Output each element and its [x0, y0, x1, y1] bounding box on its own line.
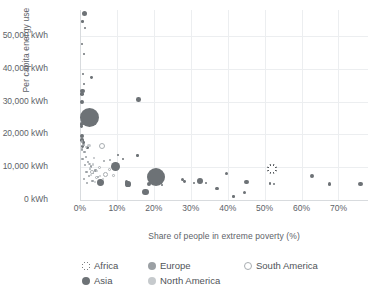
gridline-horizontal	[80, 134, 368, 135]
data-point-asia[interactable]	[81, 20, 84, 23]
data-point-europe[interactable]	[85, 171, 87, 173]
data-point-asia[interactable]	[84, 27, 86, 29]
legend-swatch-europe-icon	[148, 262, 156, 270]
y-axis-tick-label: 10,000 kWh	[0, 161, 48, 171]
data-point-asia[interactable]	[197, 178, 203, 184]
data-point-europe[interactable]	[109, 159, 111, 161]
x-axis-tick-label: 60%	[282, 203, 322, 213]
legend-swatch-africa-icon	[82, 262, 90, 270]
legend-item-asia[interactable]: Asia	[82, 275, 112, 286]
legend-label: North America	[160, 275, 220, 286]
data-point-southamerica[interactable]	[93, 157, 96, 160]
data-point-asia[interactable]	[136, 97, 141, 102]
data-point-asia[interactable]	[161, 184, 163, 186]
data-point-europe[interactable]	[103, 160, 105, 162]
data-point-asia[interactable]	[232, 195, 235, 198]
legend-item-europe[interactable]: Europe	[148, 260, 191, 271]
y-axis-tick-label: 50,000 kWh	[0, 30, 48, 40]
data-point-asia[interactable]	[80, 92, 84, 96]
data-point-asia[interactable]	[82, 11, 87, 16]
data-point-africa[interactable]	[267, 164, 277, 174]
data-point-asia[interactable]	[193, 182, 195, 184]
y-axis-tick-label: 30,000 kWh	[0, 96, 48, 106]
data-point-europe[interactable]	[85, 156, 87, 158]
gridline-vertical	[265, 10, 266, 200]
legend-swatch-southamerica-icon	[244, 262, 252, 270]
x-axis-tick-label: 40%	[208, 203, 248, 213]
legend-label: Europe	[160, 260, 191, 271]
data-point-asia[interactable]	[156, 182, 158, 184]
data-point-asia[interactable]	[273, 183, 275, 185]
data-point-asia[interactable]	[122, 158, 124, 160]
data-point-asia[interactable]	[310, 174, 314, 178]
x-axis-tick-label: 70%	[318, 203, 358, 213]
gridline-vertical	[191, 10, 192, 200]
data-point-northamerica[interactable]	[96, 170, 98, 172]
data-point-europe[interactable]	[83, 178, 85, 180]
data-point-asia[interactable]	[83, 53, 85, 55]
data-point-asia[interactable]	[205, 182, 207, 184]
gridline-horizontal	[80, 167, 368, 168]
scatter-chart: Per capita energy use 0 kWh10,000 kWh20,…	[0, 0, 373, 302]
y-axis-tick-label: 20,000 kWh	[0, 128, 48, 138]
legend-swatch-asia-icon	[82, 277, 90, 285]
data-point-asia[interactable]	[117, 154, 119, 156]
data-point-asia[interactable]	[147, 182, 151, 186]
plot-area	[80, 10, 368, 200]
data-point-asia[interactable]	[243, 191, 246, 194]
data-point-southamerica[interactable]	[99, 143, 105, 149]
x-axis-title: Share of people in extreme poverty (%)	[80, 231, 368, 241]
x-axis-tick-label: 20%	[134, 203, 174, 213]
data-point-northamerica[interactable]	[92, 163, 94, 165]
data-point-asia[interactable]	[80, 125, 83, 128]
data-point-asia[interactable]	[142, 189, 149, 196]
gridline-horizontal	[80, 69, 368, 70]
x-axis-tick-label: 50%	[245, 203, 285, 213]
data-point-asia[interactable]	[215, 187, 219, 191]
data-point-asia[interactable]	[136, 154, 138, 156]
legend-item-northamerica[interactable]: North America	[148, 275, 220, 286]
data-point-asia[interactable]	[82, 73, 84, 75]
data-point-europe[interactable]	[83, 151, 85, 153]
legend-item-africa[interactable]: Africa	[82, 260, 118, 271]
data-point-northamerica[interactable]	[90, 174, 92, 176]
data-point-asia[interactable]	[81, 43, 83, 45]
data-point-asia[interactable]	[125, 180, 129, 184]
data-point-southamerica[interactable]	[90, 170, 94, 174]
gridline-vertical	[117, 10, 118, 200]
data-point-europe[interactable]	[81, 158, 83, 160]
data-point-asia[interactable]	[90, 76, 93, 79]
data-point-southamerica[interactable]	[95, 176, 98, 179]
data-point-southamerica[interactable]	[112, 174, 115, 177]
data-point-northamerica[interactable]	[102, 178, 104, 180]
y-axis-tick-label: 0 kWh	[0, 194, 48, 204]
data-point-asia[interactable]	[244, 180, 249, 185]
gridline-horizontal	[80, 36, 368, 37]
gridline-horizontal	[80, 102, 368, 103]
legend-label: Africa	[94, 260, 118, 271]
data-point-asia[interactable]	[80, 100, 84, 104]
data-point-asia[interactable]	[83, 83, 85, 85]
gridline-vertical	[302, 10, 303, 200]
x-axis-tick-label: 10%	[97, 203, 137, 213]
data-point-asia[interactable]	[269, 182, 272, 185]
legend-item-southamerica[interactable]: South America	[244, 260, 318, 271]
legend-swatch-northamerica-icon	[148, 277, 156, 285]
data-point-asia[interactable]	[328, 182, 331, 185]
data-point-southamerica[interactable]	[108, 168, 111, 171]
x-axis-tick-label: 0%	[60, 203, 100, 213]
data-point-europe[interactable]	[84, 164, 86, 166]
data-point-southamerica[interactable]	[88, 163, 90, 165]
data-point-asia[interactable]	[358, 182, 362, 186]
data-point-southamerica[interactable]	[103, 172, 108, 177]
x-axis-tick-label: 30%	[171, 203, 211, 213]
data-point-southamerica[interactable]	[98, 166, 101, 169]
data-point-europe[interactable]	[86, 182, 88, 184]
data-point-northamerica[interactable]	[87, 144, 90, 147]
gridline-vertical	[228, 10, 229, 200]
data-point-asia[interactable]	[183, 180, 186, 183]
data-point-northamerica[interactable]	[99, 175, 101, 177]
data-point-europe[interactable]	[81, 140, 84, 143]
data-point-northamerica[interactable]	[94, 181, 96, 183]
data-point-asia[interactable]	[111, 162, 120, 171]
